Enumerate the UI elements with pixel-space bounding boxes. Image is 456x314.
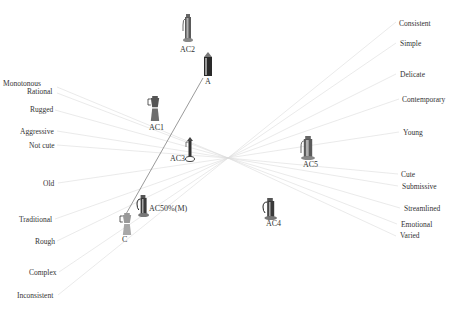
coffee-pot-icon xyxy=(148,96,159,121)
product-ac50m-marker: AC50%(M) xyxy=(137,195,188,217)
axis-line-monotonous xyxy=(57,87,228,158)
left-term-rugged: Rugged xyxy=(30,105,54,114)
product-ac2-marker: AC2 xyxy=(180,14,195,54)
axis-line-varied xyxy=(228,158,396,236)
product-c-marker: C xyxy=(120,213,131,244)
product-label: A xyxy=(205,77,211,86)
product-label: AC5 xyxy=(303,160,318,169)
coffee-pot-icon xyxy=(183,14,193,42)
product-ac4-marker: AC4 xyxy=(263,198,281,228)
right-term-simple: Simple xyxy=(400,39,422,48)
axis-line-rugged xyxy=(55,110,228,158)
right-term-consistent: Consistent xyxy=(399,19,432,28)
product-label: AC1 xyxy=(149,123,164,132)
right-adjective-labels: ConsistentSimpleDelicateContemporaryYoun… xyxy=(399,19,446,240)
left-term-aggressive: Aggressive xyxy=(20,127,54,136)
left-term-inconsistent: Inconsistent xyxy=(17,291,54,300)
left-term-old: Old xyxy=(43,179,55,188)
left-adjective-labels: MonotonousRationalRuggedAggressiveNot cu… xyxy=(3,79,57,300)
axis-line-aggressive xyxy=(57,131,228,158)
left-term-rational: Rational xyxy=(27,87,52,96)
right-term-streamlined: Streamlined xyxy=(404,204,440,213)
coffee-pot-icon xyxy=(263,198,277,220)
product-label: AC4 xyxy=(266,219,281,228)
right-term-young: Young xyxy=(403,128,423,137)
axis-line-rational xyxy=(57,93,228,158)
left-term-traditional: Traditional xyxy=(19,215,52,224)
product-a-marker: A xyxy=(204,52,212,86)
right-term-contemporary: Contemporary xyxy=(402,95,446,104)
axis-line-not-cute xyxy=(57,145,228,158)
product-label: C xyxy=(122,235,127,244)
coffee-pot-icon xyxy=(301,136,315,160)
product-label: AC3 xyxy=(170,154,185,163)
product-markers: AC2AAC1AC3AC5AC50%(M)CAC4 xyxy=(120,14,318,244)
semantic-axis-lines xyxy=(55,22,400,295)
coffee-pot-icon xyxy=(137,195,149,217)
right-term-cute: Cute xyxy=(401,170,416,179)
left-term-not-cute: Not cute xyxy=(29,141,55,150)
axis-line-consistent xyxy=(228,22,396,158)
product-label: AC2 xyxy=(180,45,195,54)
axis-line-inconsistent xyxy=(58,158,228,295)
right-term-emotional: Emotional xyxy=(401,220,432,229)
product-ac5-marker: AC5 xyxy=(301,136,318,169)
right-term-delicate: Delicate xyxy=(400,70,426,79)
axis-line-contemporary xyxy=(228,99,399,158)
left-term-complex: Complex xyxy=(29,268,57,277)
coffee-pot-icon xyxy=(204,52,212,76)
right-term-varied: Varied xyxy=(400,231,420,240)
left-term-rough: Rough xyxy=(35,237,55,246)
product-label: AC50%(M) xyxy=(149,204,188,213)
perceptual-map: AC2AAC1AC3AC5AC50%(M)CAC4 MonotonousRati… xyxy=(0,0,456,314)
map-canvas: AC2AAC1AC3AC5AC50%(M)CAC4 MonotonousRati… xyxy=(0,0,456,314)
right-term-submissive: Submissive xyxy=(402,182,437,191)
coffee-pot-icon xyxy=(120,213,131,235)
product-ac1-marker: AC1 xyxy=(148,96,164,132)
